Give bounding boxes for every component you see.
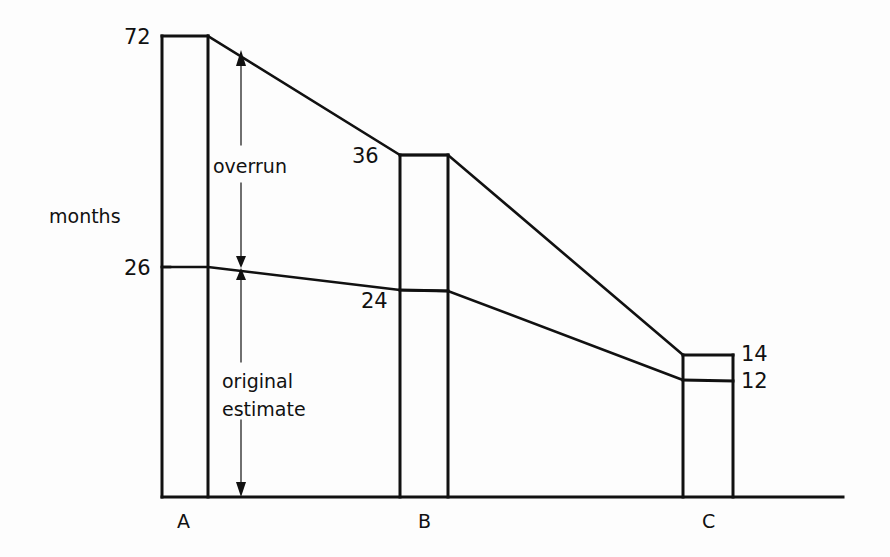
bar-b <box>400 155 448 497</box>
total-line <box>208 36 683 355</box>
value-c-estimate: 12 <box>741 371 768 392</box>
chart-figure: months 72 26 36 24 14 12 overrun origina… <box>0 0 890 557</box>
annotation-estimate: estimate <box>222 400 306 419</box>
category-b: B <box>418 512 431 531</box>
value-a-estimate: 26 <box>124 258 151 279</box>
value-b-estimate: 24 <box>361 291 388 312</box>
value-a-total: 72 <box>124 27 151 48</box>
annotation-overrun: overrun <box>213 157 287 176</box>
estimate-line <box>162 267 683 380</box>
category-c: C <box>702 512 715 531</box>
value-c-total: 14 <box>741 344 768 365</box>
value-b-total: 36 <box>352 146 379 167</box>
y-axis-label: months <box>49 207 121 226</box>
category-a: A <box>177 512 190 531</box>
annotation-original: original <box>222 372 293 391</box>
bar-c <box>683 355 733 497</box>
